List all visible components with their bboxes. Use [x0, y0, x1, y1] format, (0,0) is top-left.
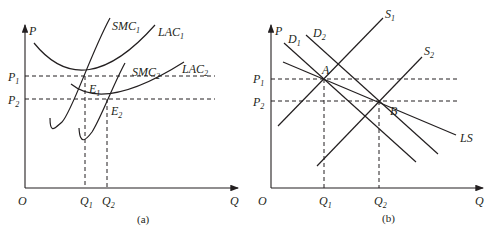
lac2-label: LAC2 — [181, 62, 208, 78]
s2-label: S2 — [424, 44, 434, 60]
d2-curve — [306, 35, 438, 154]
caption-b: (b) — [382, 212, 395, 225]
origin-label-a: O — [18, 194, 27, 208]
panel-a: P O Q P1 P2 Q1 Q2 SMC1 LAC1 SMC2 LAC2 E1… — [7, 18, 239, 226]
y-axis-label-a: P — [28, 24, 37, 38]
x-axis-label-b: Q — [475, 194, 484, 208]
q1-label-a: Q1 — [80, 194, 93, 210]
x-axis-label-a: Q — [230, 194, 239, 208]
q1-label-b: Q1 — [319, 194, 332, 210]
origin-label-b: O — [258, 194, 267, 208]
y-axis-label-b: P — [274, 24, 283, 38]
p2-label-b: P2 — [252, 95, 264, 111]
smc2-curve — [79, 63, 125, 140]
q2-label-b: Q2 — [374, 194, 387, 210]
point-a-label: A — [321, 63, 330, 77]
q2-label-a: Q2 — [102, 194, 115, 210]
smc1-label: SMC1 — [112, 19, 140, 35]
lac1-label: LAC1 — [157, 25, 184, 41]
s2-curve — [317, 57, 422, 166]
economics-diagram: P O Q P1 P2 Q1 Q2 SMC1 LAC1 SMC2 LAC2 E1… — [0, 0, 490, 232]
caption-a: (a) — [137, 213, 150, 226]
s1-label: S1 — [385, 7, 395, 23]
smc2-label: SMC2 — [132, 65, 160, 81]
d1-label: D1 — [287, 32, 301, 48]
p2-label-a: P2 — [7, 93, 19, 109]
ls-label: LS — [459, 131, 473, 145]
e1-label: E1 — [88, 82, 100, 98]
p1-label-b: P1 — [252, 72, 264, 88]
p1-label-a: P1 — [7, 70, 19, 86]
smc1-curve — [50, 18, 110, 129]
d1-curve — [284, 43, 416, 162]
ls-curve — [283, 62, 456, 135]
d2-label: D2 — [312, 26, 326, 42]
e2-label: E2 — [110, 104, 122, 120]
point-b-label: B — [390, 104, 398, 118]
panel-b: P O Q P1 P2 Q1 Q2 D1 D2 S1 S2 LS A B (b) — [252, 7, 484, 225]
